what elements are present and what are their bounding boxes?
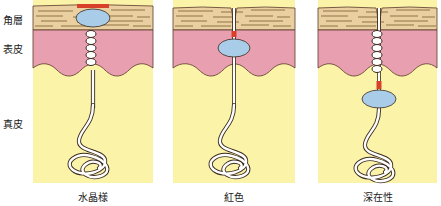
panel-crystalline bbox=[33, 0, 153, 183]
miliaria-diagram bbox=[0, 0, 441, 206]
caption-profunda: 深在性 bbox=[318, 189, 438, 204]
vesicle bbox=[362, 90, 396, 108]
panel-rubra bbox=[173, 0, 295, 183]
caption-rubra: 紅色 bbox=[174, 189, 294, 204]
caption-crystalline: 水晶様 bbox=[33, 189, 153, 204]
vesicle bbox=[218, 39, 250, 57]
panel-profunda bbox=[318, 0, 437, 183]
vesicle bbox=[76, 9, 110, 27]
